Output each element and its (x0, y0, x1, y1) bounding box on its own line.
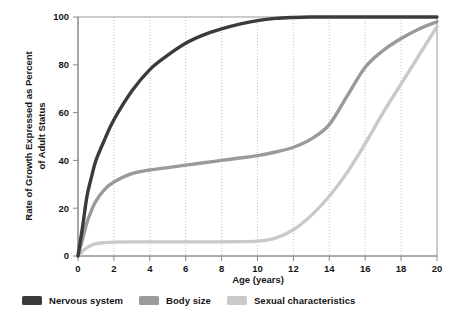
chart-legend: Nervous system Body size Sexual characte… (0, 288, 459, 312)
y-tick-label-100: 100 (53, 11, 69, 22)
y-tick-label-0: 0 (64, 250, 69, 261)
x-tick-label-16: 16 (360, 263, 371, 274)
legend-item-nervous-system: Nervous system (22, 295, 123, 306)
x-axis-title: Age (years) (232, 274, 284, 285)
x-tick-label-14: 14 (324, 263, 335, 274)
y-axis-title-line2: of Adult Status (36, 102, 47, 169)
legend-label-nervous-system: Nervous system (49, 295, 123, 306)
y-axis-tick-labels: 020406080100 (53, 11, 69, 261)
legend-swatch-body-size (139, 296, 159, 305)
y-tick-label-60: 60 (58, 107, 69, 118)
y-axis-title-line1: Rate of Growth Expressed as Percent (23, 50, 34, 220)
x-tick-label-6: 6 (183, 263, 188, 274)
y-tick-label-20: 20 (58, 203, 69, 214)
legend-item-body-size: Body size (139, 295, 211, 306)
legend-item-sexual-characteristics: Sexual characteristics (227, 295, 355, 306)
y-tick-label-40: 40 (58, 155, 69, 166)
x-axis-tick-labels: 02468101214161820 (75, 263, 442, 274)
y-tick-label-80: 80 (58, 59, 69, 70)
legend-swatch-nervous-system (22, 296, 42, 305)
x-tick-label-0: 0 (75, 263, 80, 274)
growth-rate-chart-figure: 020406080100 02468101214161820 Rate of G… (0, 0, 459, 315)
x-tick-label-18: 18 (396, 263, 407, 274)
x-axis-ticks (78, 256, 437, 261)
y-axis-ticks (73, 17, 78, 256)
legend-swatch-sexual-characteristics (227, 296, 247, 305)
x-tick-label-4: 4 (147, 263, 153, 274)
legend-label-body-size: Body size (166, 295, 211, 306)
x-tick-label-20: 20 (432, 263, 443, 274)
x-tick-label-10: 10 (252, 263, 263, 274)
x-tick-label-8: 8 (219, 263, 224, 274)
x-tick-label-2: 2 (111, 263, 116, 274)
plot-background (78, 17, 437, 256)
x-tick-label-12: 12 (288, 263, 299, 274)
growth-curves-svg: 020406080100 02468101214161820 Rate of G… (0, 0, 459, 285)
legend-label-sexual-characteristics: Sexual characteristics (254, 295, 355, 306)
chart-plot-area: 020406080100 02468101214161820 Rate of G… (0, 0, 459, 285)
